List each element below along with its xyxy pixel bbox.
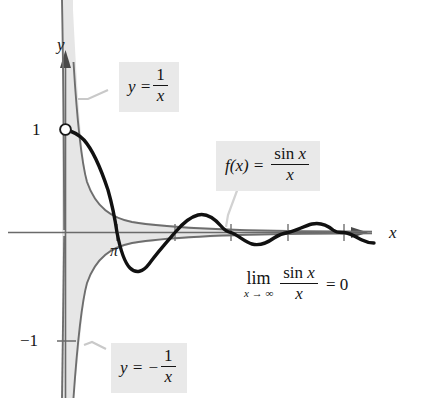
label-lower-envelope-numerator: 1 (161, 347, 176, 367)
limit-operator-subscript: x → ∞ (244, 288, 273, 300)
limit-operator-text: lim (247, 269, 271, 287)
label-upper-envelope-lhs: y = (128, 78, 151, 95)
limit-equals-value: = 0 (326, 276, 348, 293)
x-axis-label: x (389, 224, 397, 241)
shaded-envelope-region-right (73, 0, 373, 398)
limit-fraction: sin x x (280, 264, 318, 303)
label-lower-envelope-fraction: 1 x (161, 347, 176, 386)
leader-line-lower-envelope (84, 342, 106, 349)
label-lower-envelope-lhs: y = − (120, 359, 159, 376)
label-lower-envelope: y = − 1 x (111, 343, 187, 393)
limit-numerator: sin x (280, 264, 318, 284)
limit-operator: lim x → ∞ (244, 269, 273, 300)
label-upper-envelope-fraction: 1 x (153, 66, 168, 105)
label-lower-envelope-denominator: x (161, 367, 175, 386)
removable-discontinuity-hole (60, 124, 71, 135)
limit-numerator-var: x (307, 263, 315, 282)
label-upper-envelope-denominator: x (154, 86, 168, 105)
label-function-numerator: sin x (271, 145, 309, 165)
label-function-denominator: x (283, 165, 297, 184)
limit-denominator: x (292, 284, 306, 303)
label-function-numerator-var: x (298, 144, 306, 163)
label-upper-envelope-numerator: 1 (153, 66, 168, 86)
x-tick-label-pi: π (110, 243, 118, 259)
y-tick-label-one: 1 (32, 121, 41, 138)
leader-line-function (226, 188, 238, 227)
label-function: f(x) = sin x x (216, 141, 320, 191)
label-upper-envelope: y = 1 x (119, 62, 179, 112)
y-axis-label: y (57, 36, 65, 53)
sinx-over-x-figure: y x 1 −1 π y = 1 x f(x) = sin x x y = − … (0, 0, 422, 398)
label-function-lhs: f(x) = (225, 157, 264, 174)
leader-line-upper-envelope (78, 90, 108, 99)
plot-canvas (0, 0, 422, 398)
limit-expression: lim x → ∞ sin x x = 0 (244, 265, 348, 304)
limit-numerator-fn: sin (283, 263, 303, 282)
label-function-numerator-fn: sin (274, 144, 294, 163)
label-function-fraction: sin x x (271, 145, 309, 184)
y-tick-label-minus-one: −1 (20, 332, 38, 349)
